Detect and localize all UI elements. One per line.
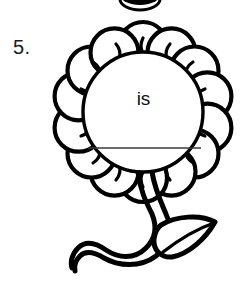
flower-center-circle (83, 52, 203, 172)
worksheet-page: 5. (0, 0, 252, 281)
flower-illustration (0, 0, 252, 281)
top-crop-fragment-icon (118, 0, 162, 10)
flower-leaf (154, 217, 215, 257)
prompt-word: is (84, 88, 203, 110)
